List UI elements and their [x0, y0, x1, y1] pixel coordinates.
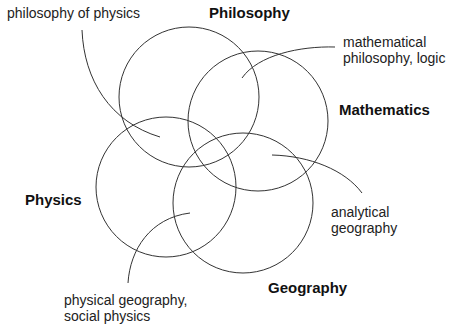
annotation-line: philosophy of physics — [7, 5, 140, 21]
physics-label: Physics — [25, 191, 82, 208]
mathematical-philosophy-annotation: mathematical philosophy, logic — [343, 34, 445, 66]
mathematical-philosophy-connector — [242, 47, 335, 78]
annotation-line: mathematical — [343, 34, 445, 50]
geography-circle — [173, 133, 313, 273]
annotation-line: analytical — [331, 204, 397, 220]
annotation-line: philosophy, logic — [343, 50, 445, 66]
physical-geography-annotation: physical geography, social physics — [64, 292, 187, 324]
physics-circle — [96, 117, 236, 257]
mathematics-circle — [188, 51, 328, 191]
analytical-geography-annotation: analytical geography — [331, 204, 397, 236]
mathematics-label: Mathematics — [339, 101, 430, 118]
annotation-line: social physics — [64, 308, 187, 324]
annotation-line: geography — [331, 220, 397, 236]
physical-geography-connector — [128, 213, 190, 283]
philosophy-of-physics-connector — [82, 30, 160, 137]
philosophy-label: Philosophy — [209, 4, 290, 21]
philosophy-of-physics-annotation: philosophy of physics — [7, 5, 140, 21]
analytical-geography-connector — [272, 155, 362, 193]
geography-label: Geography — [268, 279, 347, 296]
annotation-line: physical geography, — [64, 292, 187, 308]
philosophy-circle — [119, 27, 259, 167]
